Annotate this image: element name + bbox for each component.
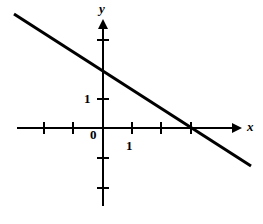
- y-axis: [97, 19, 109, 206]
- y-axis-arrowhead-icon: [98, 19, 108, 29]
- x-axis-label: x: [247, 120, 254, 133]
- plotted-line: [14, 14, 251, 166]
- x-axis: [17, 122, 242, 134]
- origin-label: 0: [90, 128, 97, 141]
- coordinate-plane-svg: [0, 0, 263, 224]
- y-axis-label: y: [99, 2, 105, 15]
- y-tick-label-1: 1: [84, 92, 91, 105]
- graph-figure: y x 0 1 1: [0, 0, 263, 224]
- x-tick-label-1: 1: [126, 139, 133, 152]
- x-axis-arrowhead-icon: [232, 123, 242, 133]
